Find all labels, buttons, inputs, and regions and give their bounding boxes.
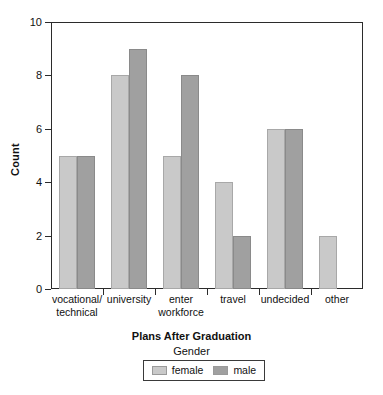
bar-chart: Count 0246810 vocational/ technicalunive… <box>0 0 383 395</box>
y-tick-label: 10 <box>30 17 42 28</box>
legend-title: Gender <box>0 345 383 357</box>
legend-label: female <box>172 365 204 376</box>
bar <box>59 156 77 290</box>
bar <box>129 49 147 289</box>
legend-label: male <box>233 365 256 376</box>
bar <box>319 236 337 289</box>
legend-item: female <box>152 365 204 376</box>
y-tick-label: 2 <box>36 230 42 241</box>
plot-area: 0246810 <box>51 22 363 289</box>
x-tick-label: other <box>303 293 371 306</box>
legend-item: male <box>213 365 256 376</box>
y-tick-label: 6 <box>36 123 42 134</box>
y-tick-label: 4 <box>36 177 42 188</box>
legend: femalemale <box>143 360 265 381</box>
y-axis-title: Count <box>6 128 24 192</box>
bar <box>233 236 251 289</box>
y-tick-mark <box>45 236 51 237</box>
y-tick-label: 8 <box>36 70 42 81</box>
bar <box>77 156 95 290</box>
x-axis-tick-labels: vocational/ technicaluniversityenter wor… <box>51 293 363 323</box>
bar <box>267 129 285 289</box>
y-tick-mark <box>45 129 51 130</box>
bar <box>111 75 129 289</box>
x-axis-title: Plans After Graduation <box>0 330 383 342</box>
bar <box>163 156 181 290</box>
legend-swatch <box>152 366 167 375</box>
bar <box>285 129 303 289</box>
legend-swatch <box>213 366 228 375</box>
y-tick-mark <box>45 289 51 290</box>
y-tick-mark <box>45 182 51 183</box>
y-tick-mark <box>45 22 51 23</box>
bar <box>181 75 199 289</box>
y-tick-label: 0 <box>36 284 42 295</box>
bar <box>215 182 233 289</box>
y-tick-mark <box>45 75 51 76</box>
